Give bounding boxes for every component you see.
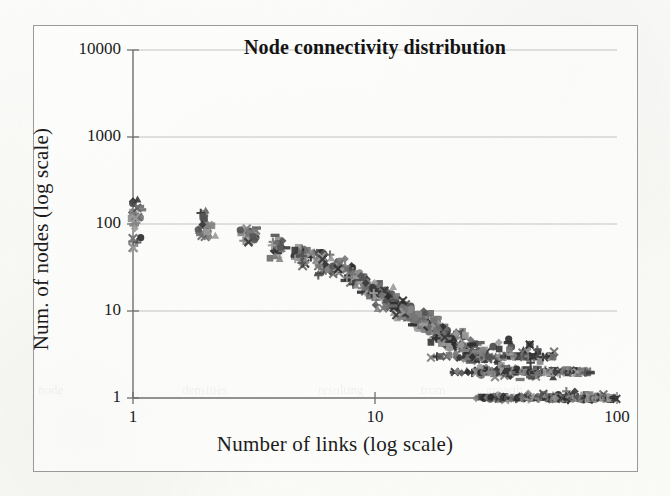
x-tick-label: 1 [103,407,163,427]
y-axis-title-wrapper: Num. of nodes (log scale) [29,64,59,414]
y-tick-label: 10 [51,300,121,320]
y-tick-label: 10000 [51,39,121,59]
y-tick-label: 100 [51,213,121,233]
chart-title: Node connectivity distribution [133,36,617,59]
y-tick-label: 1000 [51,126,121,146]
figure-border [33,25,638,472]
x-tick-label: 100 [587,407,647,427]
y-tick-label: 1 [51,387,121,407]
x-axis-title: Number of links (log scale) [0,432,670,457]
x-tick-label: 10 [345,407,405,427]
